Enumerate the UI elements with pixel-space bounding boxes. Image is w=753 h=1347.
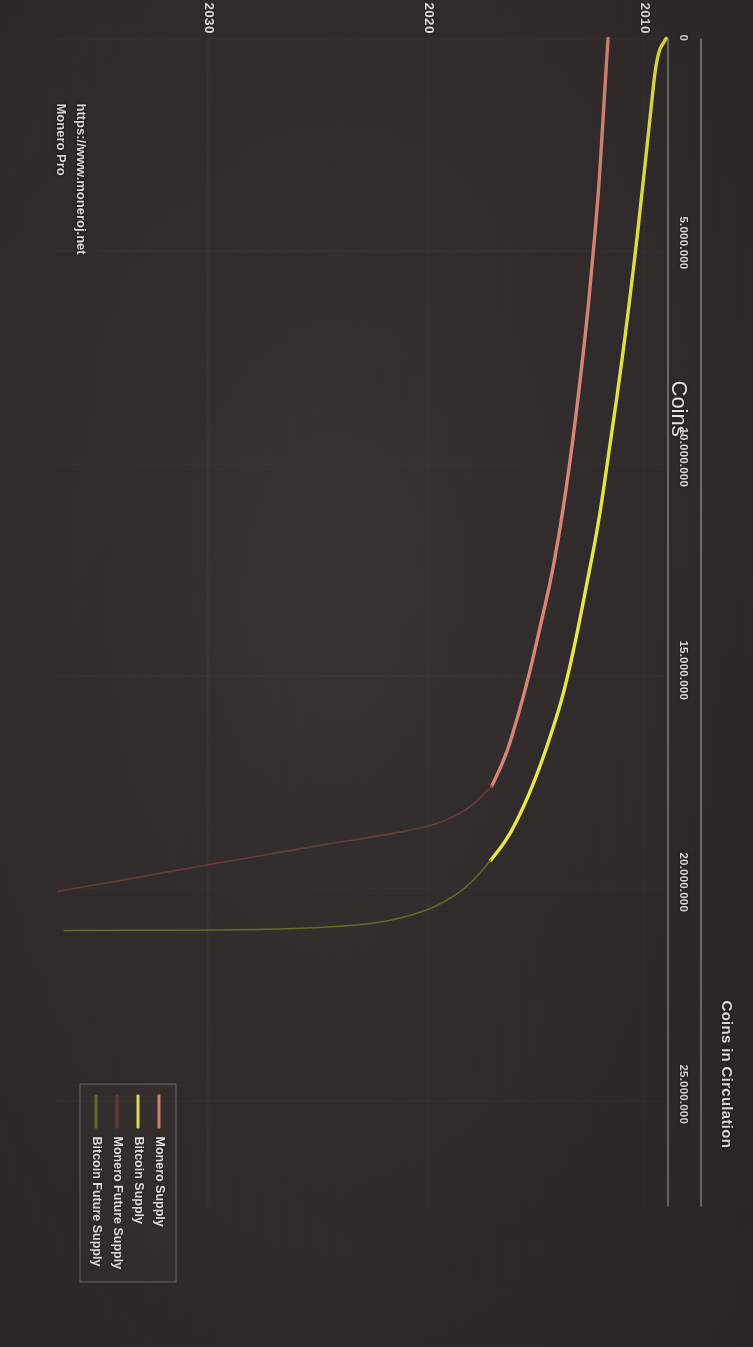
- plot-area: [52, 38, 668, 1206]
- chart-stage: Coins in Circulation Coins 0: [0, 0, 753, 1347]
- x-tick-label-2020: 2020: [421, 2, 436, 33]
- y-tick-label-15m: 15.000.000: [677, 640, 689, 700]
- y-tick-label-25m: 25.000.000: [677, 1064, 689, 1124]
- x-tick-label-2010: 2010: [637, 2, 652, 33]
- title-divider: [700, 38, 701, 1206]
- page-title: Coins in Circulation: [718, 1000, 735, 1148]
- watermark-url: https://www.moneroj.net: [73, 103, 88, 254]
- legend-item-bitcoin-future-supply[interactable]: Bitcoin Future Supply: [89, 1094, 103, 1269]
- legend-item-monero-future-supply[interactable]: Monero Future Supply: [110, 1094, 124, 1269]
- legend-label-monero-supply: Monero Supply: [152, 1136, 166, 1226]
- legend-swatch-monero-future-supply: [116, 1094, 119, 1128]
- legend-swatch-bitcoin-future-supply: [95, 1094, 98, 1128]
- legend: Monero Supply Bitcoin Supply Monero Futu…: [79, 1083, 176, 1282]
- legend-label-monero-future-supply: Monero Future Supply: [110, 1136, 124, 1269]
- legend-label-bitcoin-supply: Bitcoin Supply: [131, 1136, 145, 1224]
- watermark-brand: Monero Pro: [53, 103, 68, 175]
- series-line-bitcoin-supply: [490, 38, 666, 860]
- series-line-monero-future-supply: [58, 786, 492, 891]
- y-tick-label-5m: 5.000.000: [677, 216, 689, 269]
- y-tick-label-0: 0: [677, 34, 689, 41]
- legend-item-monero-supply[interactable]: Monero Supply: [152, 1094, 166, 1269]
- y-tick-label-10m: 10.000.000: [677, 427, 689, 487]
- series-line-monero-supply: [491, 38, 607, 786]
- legend-swatch-bitcoin-supply: [137, 1094, 140, 1128]
- y-tick-label-20m: 20.000.000: [677, 852, 689, 912]
- screenshot-canvas: Coins in Circulation Coins 0: [0, 0, 753, 1347]
- legend-item-bitcoin-supply[interactable]: Bitcoin Supply: [131, 1094, 145, 1269]
- legend-swatch-monero-supply: [158, 1094, 161, 1128]
- series-line-bitcoin-future-supply: [64, 860, 491, 930]
- series-canvas: [52, 38, 668, 1206]
- x-tick-label-2030: 2030: [201, 2, 216, 33]
- legend-label-bitcoin-future-supply: Bitcoin Future Supply: [89, 1136, 103, 1266]
